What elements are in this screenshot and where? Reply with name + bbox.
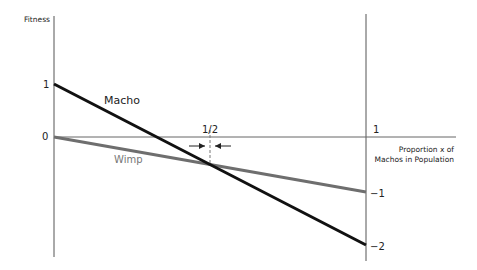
y-axis-label: Fitness — [24, 15, 50, 24]
x-axis-label-line1: Proportion x of — [399, 145, 454, 154]
macho-line — [54, 84, 366, 245]
x-axis-label-line2: Machos in Population — [375, 155, 455, 164]
tick-half: 1/2 — [202, 124, 218, 135]
tick-right-m1: −1 — [370, 188, 385, 199]
chart-svg: Fitness 1 0 Macho Wimp 1/2 1 Proportion … — [0, 0, 477, 270]
macho-label: Macho — [104, 94, 140, 107]
tick-right-m2: −2 — [370, 241, 385, 252]
chart-figure: Fitness 1 0 Macho Wimp 1/2 1 Proportion … — [0, 0, 477, 270]
left-arrow-icon — [189, 143, 205, 149]
wimp-label: Wimp — [114, 154, 143, 165]
tick-left-0: 0 — [42, 131, 48, 142]
tick-one: 1 — [373, 124, 379, 135]
tick-left-1: 1 — [43, 79, 49, 90]
right-arrow-icon — [215, 143, 231, 149]
